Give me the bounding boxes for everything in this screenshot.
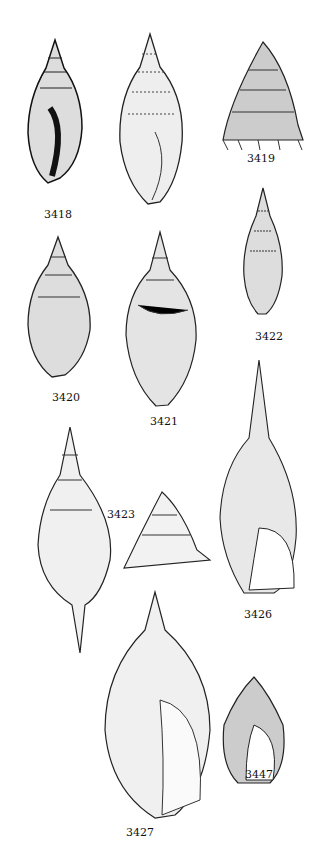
shell-figure-3423: [122, 490, 212, 570]
shell-figure-3418: [20, 38, 90, 188]
figure-label-3447: 3447: [245, 768, 273, 781]
figure-label-3421: 3421: [150, 415, 178, 428]
figure-label-3419: 3419: [247, 152, 275, 165]
shell-figure-3422: [238, 186, 288, 316]
figure-label-3420: 3420: [52, 391, 80, 404]
figure-label-3423: 3423: [107, 508, 135, 521]
shell-figure-3427: [100, 590, 215, 820]
shell-figure-3419: [218, 40, 308, 150]
figure-label-3427: 3427: [126, 826, 154, 839]
shell-figure-3421: [118, 230, 200, 410]
figure-label-3422: 3422: [255, 330, 283, 343]
shell-figure-3420: [20, 235, 100, 380]
figure-label-3418: 3418: [44, 208, 72, 221]
shell-figure-spiny: [110, 32, 190, 207]
figure-label-3426: 3426: [244, 608, 272, 621]
shell-figure-3426: [214, 358, 304, 598]
